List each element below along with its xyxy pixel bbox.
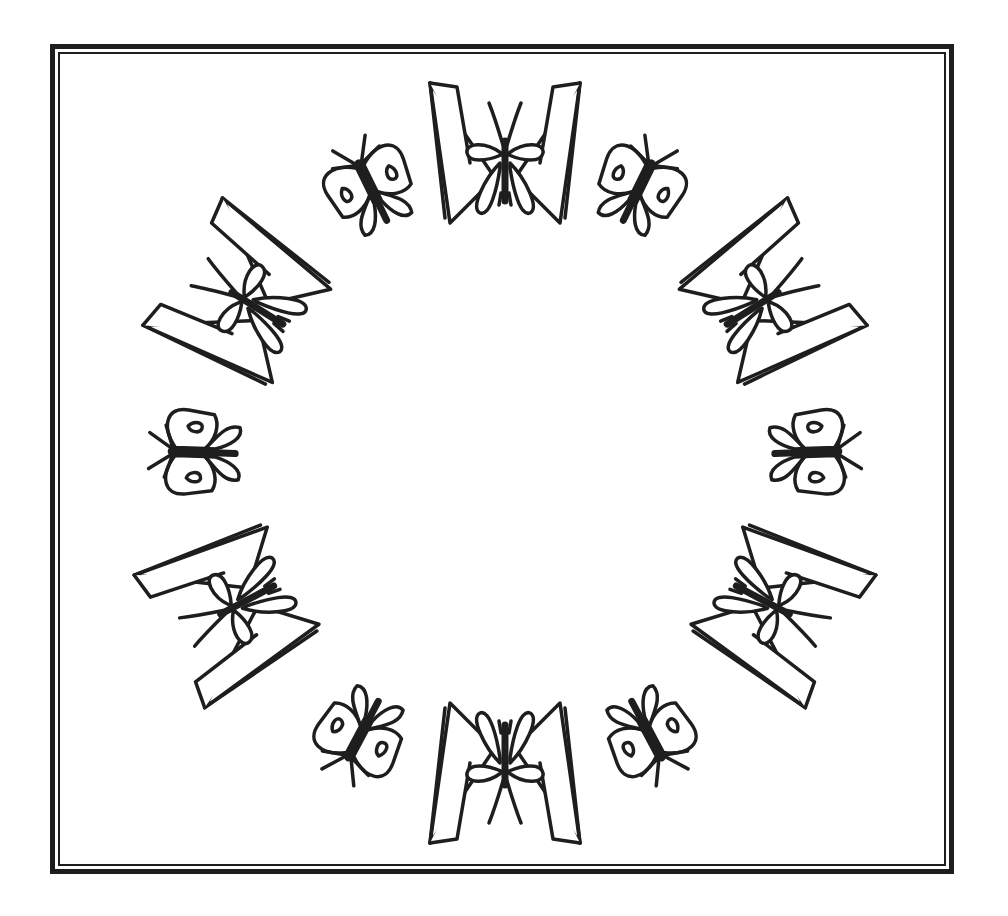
large-butterfly bbox=[134, 509, 328, 707]
small-butterfly bbox=[148, 408, 242, 496]
small-butterfly bbox=[592, 677, 709, 797]
large-butterfly bbox=[682, 509, 876, 707]
small-butterfly bbox=[583, 124, 699, 243]
small-butterfly bbox=[769, 408, 863, 496]
small-butterfly bbox=[301, 677, 418, 797]
large-butterfly bbox=[143, 198, 341, 399]
large-butterfly bbox=[430, 703, 580, 843]
wreath-ring bbox=[134, 83, 875, 843]
small-butterfly bbox=[311, 124, 427, 243]
large-butterfly bbox=[430, 83, 580, 223]
large-butterfly bbox=[669, 198, 867, 399]
butterfly-wreath bbox=[0, 0, 1008, 916]
